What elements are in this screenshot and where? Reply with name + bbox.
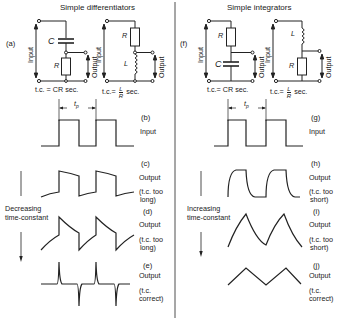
input-label: Input xyxy=(264,47,272,63)
circuit-label-f: (f) xyxy=(180,40,187,48)
time-constant-lr: t.c.= L R sec. xyxy=(270,86,307,99)
waveform-h-output xyxy=(228,170,300,197)
tc-prefix: t.c.= xyxy=(102,87,116,96)
lr-differentiator-circuit xyxy=(102,19,156,82)
waveform-c-output xyxy=(41,171,134,197)
lr-integrator-circuit xyxy=(271,19,323,82)
wave-name-j: Output xyxy=(309,272,331,280)
wave-note-j-2: correct) xyxy=(309,295,333,303)
input-label: Input xyxy=(95,47,103,63)
input-label: Input xyxy=(27,47,35,63)
time-constant-cr: t.c.= CR sec. xyxy=(207,86,248,94)
period-label: tp xyxy=(244,100,249,110)
decreasing-label-2: time-constant xyxy=(5,214,48,222)
waveform-i-output xyxy=(228,214,302,247)
inductor-label: L xyxy=(291,30,295,38)
wave-id-j: (j) xyxy=(313,262,320,270)
integrators-title: Simple integrators xyxy=(227,4,291,12)
waveform-j-output xyxy=(228,268,301,285)
wave-name-e: Output xyxy=(139,272,161,280)
wave-note-e-2: correct) xyxy=(139,295,163,303)
diagram-graphics xyxy=(0,0,340,325)
wave-id-b: (b) xyxy=(141,114,150,122)
differentiators-title: Simple differentiators xyxy=(60,4,135,12)
wave-name-i: Output xyxy=(309,221,331,229)
time-constant-lr: t.c.= L R sec. xyxy=(102,86,139,99)
tc-numerator: L xyxy=(287,86,291,93)
wave-name-b: Input xyxy=(140,128,156,136)
wave-note-i-2: short) xyxy=(310,244,328,252)
wave-name-d: Output xyxy=(139,221,161,229)
tc-prefix: t.c.= xyxy=(270,87,284,96)
tc-numerator: L xyxy=(119,86,123,93)
wave-name-c: Output xyxy=(139,174,161,182)
wave-note-d-2: long) xyxy=(140,244,156,252)
rc-integrator-circuit xyxy=(204,19,256,82)
time-constant-cr: t.c. = CR sec. xyxy=(35,86,78,94)
capacitor-label: C xyxy=(215,60,222,68)
wave-id-d: (d) xyxy=(143,208,152,216)
wave-name-g: Input xyxy=(309,128,325,136)
capacitor-label: C xyxy=(48,37,55,45)
wave-id-i: (i) xyxy=(313,208,320,216)
output-label: Output xyxy=(158,56,166,78)
tc-denominator: R xyxy=(287,93,291,99)
wave-id-g: (g) xyxy=(311,114,320,122)
wave-note-h-2: short) xyxy=(310,196,328,204)
resistor-label: R xyxy=(122,32,127,40)
increasing-label-1: Increasing xyxy=(187,205,220,213)
inductor-label: L xyxy=(124,60,128,68)
input-label: Input xyxy=(197,47,205,63)
output-label: Output xyxy=(325,56,333,78)
resistor-label: R xyxy=(218,32,223,40)
increasing-label-2: time-constant xyxy=(187,214,230,222)
wave-name-h: Output xyxy=(309,174,331,182)
resistor-label: R xyxy=(54,62,59,70)
waveform-d-output xyxy=(41,217,134,250)
waveform-e-output xyxy=(41,262,130,306)
tc-denominator: R xyxy=(119,93,123,99)
wave-note-c-2: long) xyxy=(140,196,156,204)
resistor-label: R xyxy=(289,62,294,70)
period-label: tp xyxy=(74,100,79,110)
tc-suffix: sec. xyxy=(126,87,139,96)
tc-suffix: sec. xyxy=(294,87,307,96)
wave-id-h: (h) xyxy=(311,160,320,168)
decreasing-label-1: Decreasing xyxy=(5,205,41,213)
waveform-g-input xyxy=(214,99,303,146)
wave-id-e: (e) xyxy=(143,262,152,270)
wave-id-c: (c) xyxy=(141,160,150,168)
waveform-b-input xyxy=(41,99,134,146)
cr-differentiator-circuit xyxy=(34,19,89,82)
circuit-label-a: (a) xyxy=(6,40,15,48)
